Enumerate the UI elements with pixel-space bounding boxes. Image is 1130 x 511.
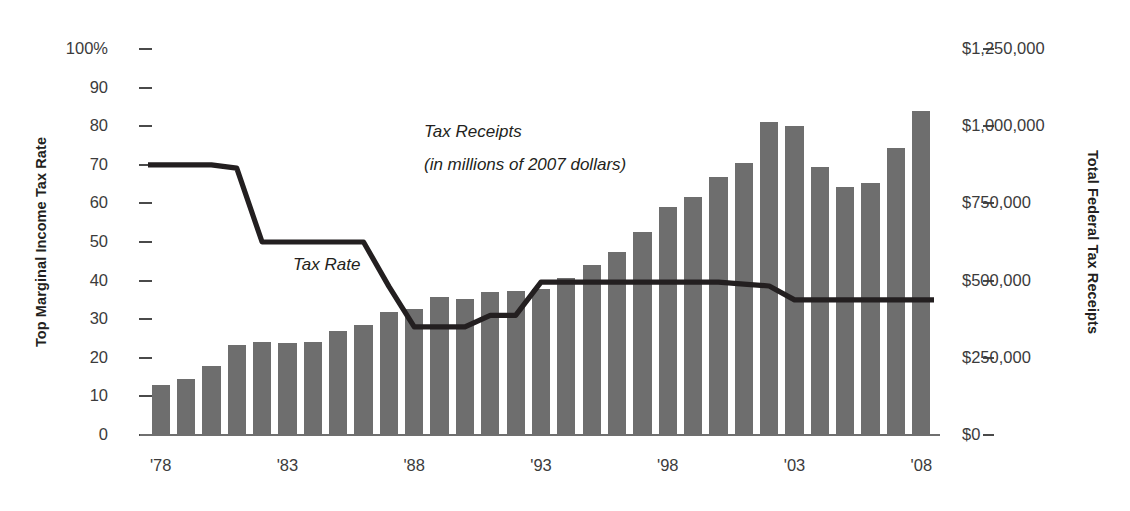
chart-container: Top Marginal Income Tax Rate Total Feder… bbox=[0, 0, 1130, 511]
left-axis-tick-label: 40 bbox=[90, 272, 108, 289]
bar bbox=[405, 309, 423, 435]
right-axis-tick-mark bbox=[983, 434, 994, 436]
bar bbox=[887, 148, 905, 435]
bar bbox=[684, 197, 702, 435]
left-axis-tick-label: 70 bbox=[90, 156, 108, 173]
bar bbox=[583, 265, 601, 435]
bar bbox=[760, 122, 778, 435]
bar bbox=[228, 345, 246, 435]
bar bbox=[253, 342, 271, 435]
bar bbox=[202, 366, 220, 435]
bar bbox=[861, 183, 879, 435]
x-axis-tick-label: '08 bbox=[911, 456, 933, 475]
bar bbox=[811, 167, 829, 435]
bar bbox=[735, 163, 753, 435]
plot-area bbox=[148, 49, 934, 435]
bar bbox=[354, 325, 372, 435]
bar bbox=[507, 291, 525, 435]
bar bbox=[481, 292, 499, 435]
bar bbox=[456, 299, 474, 435]
bar bbox=[152, 385, 170, 435]
bar bbox=[709, 177, 727, 435]
x-axis-tick-label: '03 bbox=[784, 456, 806, 475]
bar bbox=[608, 252, 626, 435]
left-axis-tick-label: 10 bbox=[90, 387, 108, 404]
right-axis-tick-label: $250,000 bbox=[962, 349, 1031, 366]
left-axis-tick-label: 80 bbox=[90, 117, 108, 134]
annotation-tax-receipts-subtitle: (in millions of 2007 dollars) bbox=[424, 155, 626, 175]
left-axis-tick-label: 50 bbox=[90, 233, 108, 250]
left-axis-tick-label: 30 bbox=[90, 310, 108, 327]
x-axis-tick-label: '78 bbox=[150, 456, 172, 475]
bar bbox=[557, 278, 575, 435]
bar bbox=[532, 289, 550, 435]
bar bbox=[177, 379, 195, 436]
bar bbox=[836, 187, 854, 435]
bar bbox=[659, 207, 677, 436]
bar bbox=[304, 342, 322, 435]
x-axis-tick-label: '83 bbox=[277, 456, 299, 475]
bar bbox=[329, 331, 347, 435]
annotation-tax-receipts-title: Tax Receipts bbox=[424, 122, 522, 142]
right-axis-tick-label: $1,000,000 bbox=[962, 117, 1045, 134]
x-axis-tick-label: '93 bbox=[530, 456, 552, 475]
left-axis-tick-label: 20 bbox=[90, 349, 108, 366]
left-axis-tick-label: 0 bbox=[99, 426, 108, 443]
right-axis-tick-label: $750,000 bbox=[962, 194, 1031, 211]
right-axis-tick-label: $1,250,000 bbox=[962, 40, 1045, 57]
x-axis-tick-label: '88 bbox=[403, 456, 425, 475]
left-axis-tick-label: 60 bbox=[90, 194, 108, 211]
x-axis-tick-label: '98 bbox=[657, 456, 679, 475]
bar bbox=[785, 126, 803, 435]
annotation-tax-rate-label: Tax Rate bbox=[293, 255, 360, 275]
left-axis-tick-label: 100% bbox=[66, 40, 108, 57]
right-axis-tick-label: $500,000 bbox=[962, 272, 1031, 289]
bar bbox=[912, 111, 930, 435]
left-axis-tick-label: 90 bbox=[90, 79, 108, 96]
bar bbox=[380, 312, 398, 435]
bar bbox=[278, 343, 296, 435]
bar bbox=[633, 232, 651, 435]
right-axis-title: Total Federal Tax Receipts bbox=[1085, 97, 1101, 387]
left-axis-title: Top Marginal Income Tax Rate bbox=[33, 97, 49, 387]
bar bbox=[430, 297, 448, 435]
right-axis-tick-label: $0 bbox=[962, 426, 980, 443]
